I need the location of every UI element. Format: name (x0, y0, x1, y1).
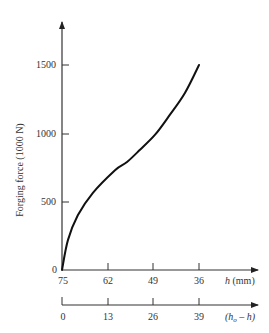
x-tick-label-49: 49 (148, 275, 158, 286)
forging-force-chart: 0 500 1000 1500 Forging force (1000 N) 7… (0, 0, 269, 333)
y-axis-title: Forging force (1000 N) (14, 123, 26, 216)
y-tick-label-0: 0 (52, 264, 57, 275)
y-tick-label-1000: 1000 (36, 128, 56, 139)
x-axis-title: h (mm) (225, 275, 255, 287)
x-ticks (108, 263, 199, 270)
x2-tick-label-26: 26 (148, 311, 158, 322)
x-tick-label-36: 36 (194, 275, 204, 286)
x2-ticks (62, 297, 199, 305)
y-tick-label-1500: 1500 (36, 59, 56, 70)
x2-axis-title: (ho – h) (225, 311, 256, 324)
y-ticks (62, 65, 69, 202)
x2-tick-label-0: 0 (61, 311, 66, 322)
x-tick-label-62: 62 (103, 275, 113, 286)
x2-tick-label-39: 39 (194, 311, 204, 322)
y-tick-label-500: 500 (41, 196, 56, 207)
forging-force-curve (62, 65, 199, 270)
x2-tick-label-13: 13 (103, 311, 113, 322)
x-tick-label-75: 75 (58, 275, 68, 286)
